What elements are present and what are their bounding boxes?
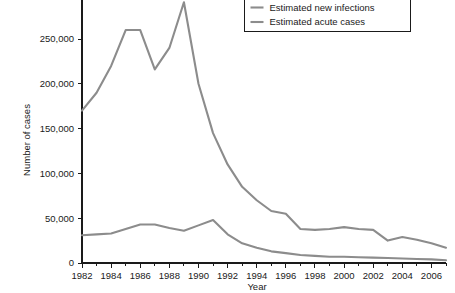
x-axis-title: Year: [247, 281, 266, 292]
x-tick-label: 1994: [246, 270, 267, 281]
y-tick-label: 50,000: [45, 213, 74, 224]
x-tick-label: 1986: [130, 270, 151, 281]
y-tick-label: 0: [69, 257, 74, 268]
series-line-1: [82, 2, 446, 248]
chart-legend: Estimated new infectionsEstimated acute …: [245, 0, 411, 32]
x-tick-label: 2000: [334, 270, 355, 281]
y-axis-title: Number of cases: [21, 104, 32, 176]
line-chart: 050,000100,000150,000200,000250,000300,0…: [0, 0, 455, 293]
x-tick-label: 1998: [304, 270, 325, 281]
x-tick-label: 2002: [363, 270, 384, 281]
legend-label-2: Estimated acute cases: [270, 16, 366, 27]
y-tick-label: 200,000: [40, 78, 74, 89]
y-tick-label: 100,000: [40, 168, 74, 179]
legend-label-1: Estimated new infections: [270, 2, 375, 13]
chart-series-group: [82, 2, 446, 260]
chart-figure: 050,000100,000150,000200,000250,000300,0…: [0, 0, 455, 293]
y-axis: 050,000100,000150,000200,000250,000300,0…: [40, 0, 82, 268]
x-tick-label: 1992: [217, 270, 238, 281]
x-tick-label: 1988: [159, 270, 180, 281]
y-tick-label: 150,000: [40, 123, 74, 134]
x-tick-label: 2004: [392, 270, 413, 281]
x-tick-label: 1996: [275, 270, 296, 281]
x-tick-label: 2006: [421, 270, 442, 281]
x-tick-label: 1990: [188, 270, 209, 281]
x-tick-label: 1984: [101, 270, 122, 281]
x-tick-label: 1982: [71, 270, 92, 281]
x-axis: 1982198419861988199019921994199619982000…: [71, 263, 446, 281]
y-tick-label: 250,000: [40, 33, 74, 44]
